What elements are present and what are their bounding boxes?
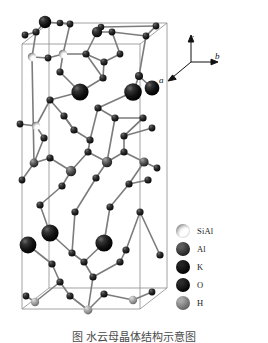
atom-o xyxy=(19,177,26,184)
atom-o xyxy=(149,125,156,132)
sphere-icon xyxy=(176,296,190,310)
atom-o xyxy=(100,290,107,297)
axis-triad: c b a xyxy=(158,32,230,94)
bond xyxy=(112,32,146,36)
sphere-icon xyxy=(176,260,190,274)
bond xyxy=(140,212,160,255)
atom-o xyxy=(89,273,96,280)
atom-sial xyxy=(32,122,40,130)
crystal-structure-figure: c b a SiAlAlKOH 图 水云母晶体结构示意图 xyxy=(0,0,268,343)
legend-item-o: O xyxy=(176,276,264,294)
atom-o xyxy=(67,21,74,28)
legend-label: O xyxy=(197,281,203,290)
sphere-icon xyxy=(176,242,190,256)
atom-o xyxy=(66,292,73,299)
atom-o xyxy=(139,114,146,121)
atom-k xyxy=(39,16,51,28)
atom-o xyxy=(45,55,52,62)
atom-o xyxy=(125,180,132,187)
bond xyxy=(110,184,129,207)
bond xyxy=(35,282,60,302)
atom-o xyxy=(86,136,93,143)
atom-o xyxy=(80,258,87,265)
atom-k xyxy=(124,83,142,101)
atom-k xyxy=(20,237,37,254)
atom-o xyxy=(58,182,65,189)
atom-o xyxy=(149,289,156,296)
bond xyxy=(93,262,120,277)
bond xyxy=(72,212,75,253)
atom-al xyxy=(66,166,76,176)
atom-o xyxy=(111,114,118,121)
figure-caption: 图 水云母晶体结构示意图 xyxy=(0,331,268,343)
legend-label: Al xyxy=(197,245,206,254)
atom-o xyxy=(100,58,107,65)
atom-o xyxy=(48,260,55,267)
legend-item-h: H xyxy=(176,294,264,312)
atom-al xyxy=(102,157,112,167)
atom-o xyxy=(56,68,63,75)
axis-label-a: a xyxy=(159,76,164,85)
atom-o xyxy=(46,96,53,103)
atom-sial xyxy=(28,53,36,61)
atom-o xyxy=(156,251,163,258)
legend-label: K xyxy=(197,263,203,272)
atom-o xyxy=(94,104,101,111)
atom-k xyxy=(41,224,58,241)
axis-label-c: c xyxy=(190,33,194,42)
bond xyxy=(40,186,62,205)
atom-h xyxy=(129,296,137,304)
atom-o xyxy=(17,121,24,128)
atom-o xyxy=(92,27,102,37)
atom-o xyxy=(144,176,151,183)
atom-o xyxy=(136,208,143,215)
atom-o xyxy=(23,293,30,300)
bond xyxy=(75,178,96,212)
atom-o xyxy=(60,112,67,119)
atom-al xyxy=(30,159,39,168)
atom-o xyxy=(120,132,127,139)
bond xyxy=(104,294,133,300)
bond xyxy=(101,26,156,27)
atom-o xyxy=(40,134,47,141)
bond xyxy=(90,108,98,140)
atom-bonds xyxy=(20,22,160,310)
axis-label-b: b xyxy=(215,52,220,61)
atom-o xyxy=(92,174,99,181)
bond xyxy=(112,32,120,54)
atom-k xyxy=(95,234,112,251)
atom-o xyxy=(143,33,150,40)
atom-o xyxy=(122,246,129,253)
atom-h xyxy=(31,298,39,306)
atom-o xyxy=(106,203,113,210)
legend-item-sial: SiAl xyxy=(176,222,264,240)
legend-label: H xyxy=(197,299,203,308)
atom-o xyxy=(70,126,77,133)
atom-o xyxy=(84,148,91,155)
atom-o xyxy=(32,28,39,35)
atom-o xyxy=(154,165,161,172)
atom-o xyxy=(71,208,78,215)
atom-o xyxy=(56,278,63,285)
sphere-icon xyxy=(176,278,190,292)
axis-arrows-icon xyxy=(158,32,230,94)
atom-o xyxy=(153,23,160,30)
bond xyxy=(32,57,34,163)
atom-o xyxy=(120,148,127,155)
legend-item-k: K xyxy=(176,258,264,276)
atom-o xyxy=(57,20,64,27)
atom-o xyxy=(68,249,75,256)
bond xyxy=(126,212,140,250)
atom-o xyxy=(116,258,123,265)
atom-al xyxy=(139,157,148,166)
atom-o xyxy=(46,154,53,161)
atom-o xyxy=(117,51,124,58)
legend-label: SiAl xyxy=(197,227,213,236)
atom-o xyxy=(135,72,143,80)
bond xyxy=(36,100,50,126)
atom-o xyxy=(109,29,116,36)
bond xyxy=(63,24,70,54)
sphere-icon xyxy=(176,224,190,238)
atom-o xyxy=(22,32,29,39)
atom-o xyxy=(36,201,43,208)
